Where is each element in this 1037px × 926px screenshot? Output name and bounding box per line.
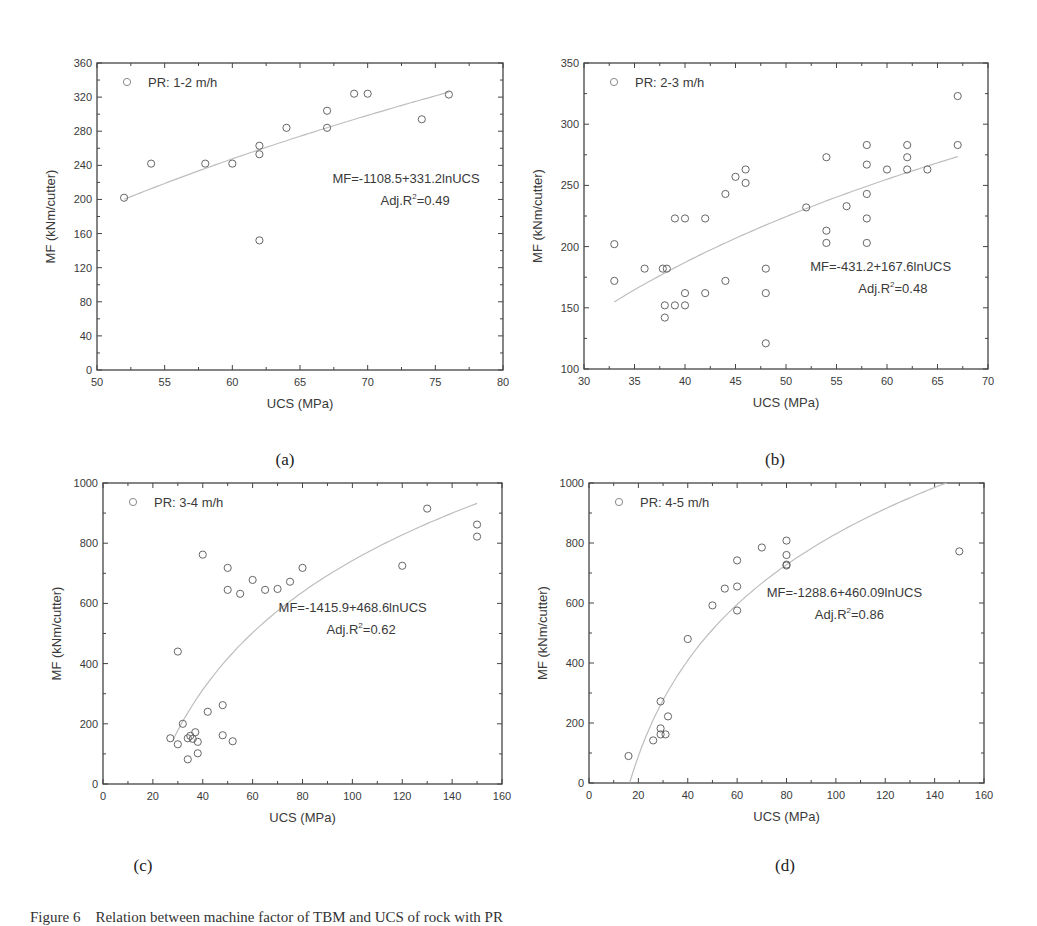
plot-frame [97, 63, 503, 370]
x-tick-label: 80 [497, 376, 509, 388]
data-point [256, 151, 263, 158]
data-point [224, 564, 231, 571]
y-tick-label: 200 [74, 193, 92, 205]
y-tick-label: 0 [92, 778, 98, 790]
x-tick-label: 60 [247, 790, 259, 802]
data-point [229, 160, 236, 167]
fit-r-squared: Adj.R2=0.86 [815, 606, 884, 622]
x-axis-label: UCS (MPa) [269, 810, 335, 825]
fit-equation: MF=-1288.6+460.09lnUCS [767, 585, 923, 600]
fit-curve [630, 483, 947, 783]
x-tick-label: 140 [925, 789, 943, 801]
data-point [783, 537, 790, 544]
data-point [299, 564, 306, 571]
data-point [671, 215, 678, 222]
y-tick-label: 800 [566, 537, 584, 549]
data-point [742, 179, 749, 186]
y-axis-label: MF (kNm/cutter) [49, 587, 64, 681]
y-tick-label: 160 [74, 228, 92, 240]
data-point [762, 340, 769, 347]
x-tick-label: 50 [91, 376, 103, 388]
data-point [473, 533, 480, 540]
fit-r-squared: Adj.R2=0.62 [327, 621, 396, 637]
data-point [762, 290, 769, 297]
fit-curve [173, 503, 477, 740]
data-point [721, 585, 728, 592]
data-point [702, 290, 709, 297]
y-tick-label: 0 [86, 364, 92, 376]
data-point [249, 576, 256, 583]
x-axis-label: UCS (MPa) [753, 809, 819, 824]
data-point [661, 302, 668, 309]
chart-panel-a: 5055606570758004080120160200240280320360… [43, 57, 509, 411]
x-axis-label: UCS (MPa) [753, 395, 819, 410]
x-tick-label: 65 [294, 376, 306, 388]
plot-frame [103, 483, 502, 784]
data-point [783, 551, 790, 558]
legend-marker-icon [610, 78, 617, 85]
data-point [261, 586, 268, 593]
x-tick-label: 0 [100, 790, 106, 802]
fit-r-squared: Adj.R2=0.48 [858, 280, 927, 296]
x-tick-label: 20 [632, 789, 644, 801]
data-point [734, 607, 741, 614]
data-point [681, 302, 688, 309]
data-point [671, 302, 678, 309]
chart-panel-d: 02040608010012014016002004006008001000UC… [535, 477, 993, 824]
data-point [681, 215, 688, 222]
data-point [611, 277, 618, 284]
data-point [883, 166, 890, 173]
data-point [734, 583, 741, 590]
x-tick-label: 75 [429, 376, 441, 388]
data-point [762, 265, 769, 272]
x-tick-label: 100 [827, 789, 845, 801]
x-tick-label: 120 [393, 790, 411, 802]
x-tick-label: 60 [731, 789, 743, 801]
y-tick-label: 0 [578, 777, 584, 789]
data-point [641, 265, 648, 272]
x-tick-label: 0 [586, 789, 592, 801]
data-point [954, 141, 961, 148]
plot-frame [584, 63, 988, 369]
x-tick-label: 60 [881, 375, 893, 387]
y-tick-label: 350 [561, 57, 579, 69]
data-point [473, 521, 480, 528]
x-tick-label: 80 [296, 790, 308, 802]
y-tick-label: 200 [566, 717, 584, 729]
y-tick-label: 1000 [560, 477, 584, 489]
data-point [863, 141, 870, 148]
legend-marker-icon [615, 498, 622, 505]
y-tick-label: 300 [561, 118, 579, 130]
data-point [863, 190, 870, 197]
y-tick-label: 400 [566, 657, 584, 669]
data-point [722, 190, 729, 197]
x-tick-label: 40 [679, 375, 691, 387]
data-point [351, 90, 358, 97]
data-point [148, 160, 155, 167]
x-tick-label: 100 [343, 790, 361, 802]
x-tick-label: 20 [147, 790, 159, 802]
y-tick-label: 100 [561, 363, 579, 375]
data-point [192, 729, 199, 736]
data-point [286, 578, 293, 585]
data-point [219, 732, 226, 739]
y-tick-label: 320 [74, 91, 92, 103]
x-tick-label: 160 [493, 790, 511, 802]
x-axis-label: UCS (MPa) [267, 396, 333, 411]
data-point [202, 160, 209, 167]
x-tick-label: 30 [578, 375, 590, 387]
data-point [194, 750, 201, 757]
data-point [863, 239, 870, 246]
data-point [954, 92, 961, 99]
fit-equation: MF=-1108.5+331.2lnUCS [332, 171, 480, 186]
data-point [863, 215, 870, 222]
data-point [924, 166, 931, 173]
y-tick-label: 120 [74, 262, 92, 274]
data-point [256, 237, 263, 244]
data-point [956, 548, 963, 555]
x-tick-label: 40 [682, 789, 694, 801]
y-axis-label: MF (kNm/cutter) [43, 170, 58, 264]
x-tick-label: 70 [362, 376, 374, 388]
legend-label: PR: 3-4 m/h [154, 495, 223, 510]
y-tick-label: 1000 [74, 477, 98, 489]
